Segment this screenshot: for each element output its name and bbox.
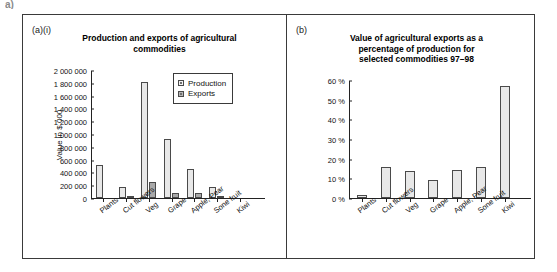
bar-group-container-b <box>350 81 517 198</box>
x-label-slot: Grape <box>428 201 449 219</box>
y-tick-label-a-3: 600 000 <box>60 156 91 165</box>
bar-group <box>350 81 374 198</box>
bar-group <box>92 71 115 198</box>
bar <box>500 86 510 198</box>
y-tick-mark-a-8 <box>91 96 94 97</box>
legend-swatch-production-icon <box>178 80 184 86</box>
x-label-slot: Grape <box>166 201 187 219</box>
y-tick-label-b-5: 50 % <box>328 96 349 105</box>
y-tick-label-a-6: 1 200 000 <box>54 118 91 127</box>
figure-page: a) (a)(i) Production and exports of agri… <box>0 0 557 272</box>
x-axis-tick-label: Kiwi <box>235 200 251 216</box>
bar <box>164 139 171 198</box>
y-tick-label-b-6: 60 % <box>328 77 349 86</box>
y-tick-mark-b-3 <box>349 140 352 141</box>
chart-title-b-line3: selected commodities 97–98 <box>315 54 518 65</box>
x-label-slot: Veg <box>404 201 417 219</box>
y-tick-label-a-10: 2 000 000 <box>54 67 91 76</box>
y-tick-mark-a-0 <box>91 199 94 200</box>
bar-group <box>493 81 517 198</box>
x-axis-labels-b: PlantsCut flowersVegGrapeApple, PearSone… <box>349 201 517 257</box>
y-tick-mark-b-0 <box>349 199 352 200</box>
y-tick-mark-a-4 <box>91 147 94 148</box>
y-tick-label-b-1: 10 % <box>328 175 349 184</box>
chart-title-b-line1: Value of agricultural exports as a <box>315 33 518 44</box>
y-tick-mark-a-5 <box>91 135 94 136</box>
x-axis-labels-a: PlantsCut flowersVegGrapeApple, PearSone… <box>91 201 251 257</box>
y-tick-label-a-4: 800 000 <box>60 143 91 152</box>
bar <box>187 169 194 198</box>
chart-panel-b: (b) Value of agricultural exports as a p… <box>287 15 534 258</box>
x-label-slot: Kiwi <box>235 201 249 219</box>
legend-label-production: Production <box>188 79 226 88</box>
bar <box>428 180 438 198</box>
y-tick-label-a-8: 1 600 000 <box>54 92 91 101</box>
bar <box>141 82 148 198</box>
legend-item-exports: Exports <box>178 89 226 98</box>
legend-item-production: Production <box>178 79 226 88</box>
bar-group <box>422 81 446 198</box>
x-label-slot: Veg <box>144 201 157 219</box>
y-tick-label-a-9: 1 800 000 <box>54 79 91 88</box>
y-tick-label-a-0: 0 <box>83 195 91 204</box>
y-tick-mark-a-10 <box>91 71 94 72</box>
bar-group <box>137 71 160 198</box>
x-label-slot: Plants <box>98 201 119 219</box>
bar-group <box>374 81 398 198</box>
chart-title-a: Production and exports of agricultural c… <box>23 33 286 54</box>
y-tick-label-a-5: 1 000 000 <box>54 131 91 140</box>
chart-title-b-line2: percentage of production for <box>315 44 518 55</box>
y-tick-mark-a-6 <box>91 122 94 123</box>
y-tick-mark-b-4 <box>349 120 352 121</box>
y-tick-mark-a-7 <box>91 109 94 110</box>
y-tick-mark-a-2 <box>91 173 94 174</box>
bar-group <box>398 81 422 198</box>
chart-legend-a: Production Exports <box>173 73 233 104</box>
chart-title-a-line2: commodities <box>57 44 262 55</box>
bar <box>119 187 126 198</box>
bar-group <box>115 71 138 198</box>
bar <box>381 167 391 198</box>
chart-title-a-line1: Production and exports of agricultural <box>57 33 262 44</box>
legend-label-exports: Exports <box>188 89 215 98</box>
y-tick-mark-a-9 <box>91 83 94 84</box>
y-tick-label-a-2: 400 000 <box>60 169 91 178</box>
y-tick-label-a-1: 200 000 <box>60 182 91 191</box>
y-tick-mark-b-5 <box>349 100 352 101</box>
y-tick-label-b-2: 20 % <box>328 155 349 164</box>
plot-area-b: 0 %10 %20 %30 %40 %50 %60 % <box>349 81 517 199</box>
bar-group <box>445 81 469 198</box>
y-tick-label-b-0: 0 % <box>332 195 349 204</box>
figure-panels: (a)(i) Production and exports of agricul… <box>22 14 535 259</box>
y-tick-label-a-7: 1 400 000 <box>54 105 91 114</box>
x-axis-tick-label: Kiwi <box>500 200 516 216</box>
chart-title-b: Value of agricultural exports as a perce… <box>287 33 534 65</box>
y-tick-label-b-4: 40 % <box>328 116 349 125</box>
y-tick-mark-a-3 <box>91 160 94 161</box>
x-label-slot: Plants <box>356 201 377 219</box>
legend-swatch-exports-icon <box>178 91 184 97</box>
page-corner-artifact: a) <box>5 0 21 9</box>
bar <box>96 165 103 198</box>
chart-panel-a: (a)(i) Production and exports of agricul… <box>23 15 287 258</box>
bar <box>452 170 462 198</box>
y-tick-mark-b-1 <box>349 179 352 180</box>
bar-group <box>469 81 493 198</box>
y-tick-label-b-3: 30 % <box>328 136 349 145</box>
y-tick-mark-a-1 <box>91 186 94 187</box>
y-tick-mark-b-6 <box>349 81 352 82</box>
y-tick-mark-b-2 <box>349 159 352 160</box>
x-label-slot: Kiwi <box>500 201 514 219</box>
